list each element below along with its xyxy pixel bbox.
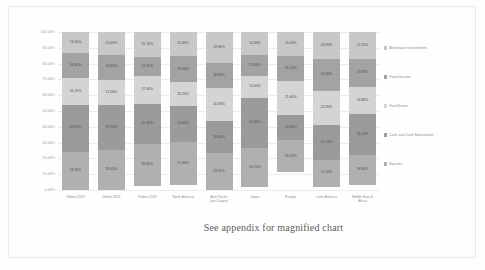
bar-segment[interactable]: 24.30% <box>62 152 89 190</box>
bar-segment[interactable]: 17.00% <box>98 80 125 106</box>
legend-item[interactable]: Fixed Income <box>384 75 411 79</box>
x-axis-label: Latin America <box>313 195 340 199</box>
bar-column[interactable]: 15.30%16.60%15.10%22.60%27.40% <box>170 32 197 190</box>
bar-segment[interactable]: 21.60% <box>277 81 304 115</box>
bar-segment[interactable]: 23.10% <box>206 153 233 189</box>
bar-series-container: 13.00%16.40%16.70%29.60%24.30%15.00%16.6… <box>58 32 380 190</box>
bar-segment-value: 22.60% <box>177 122 189 126</box>
bar-column[interactable]: 16.90%20.30%21.90%21.70%17.10% <box>313 32 340 190</box>
legend-label: Fixed Income <box>389 75 411 79</box>
bar-segment[interactable]: 17.10% <box>313 160 340 187</box>
bar-segment-value: 17.10% <box>357 44 369 48</box>
legend-swatch-icon <box>384 162 387 165</box>
y-axis-tick: 100.00% <box>40 30 55 34</box>
bar-segment[interactable]: 29.70% <box>98 105 125 150</box>
bar-segment[interactable]: 16.70% <box>62 78 89 104</box>
bar-column[interactable]: 14.30%13.80%13.40%31.90%24.70% <box>241 32 268 190</box>
y-axis-tick-labels: 100.00%90.00%80.00%70.00%60.00%50.00%40.… <box>30 32 57 190</box>
legend-item[interactable]: Real Estate <box>384 104 408 108</box>
bar-column[interactable]: 15.70%12.20%17.40%25.30%26.90% <box>134 32 161 190</box>
bar-segment-value: 16.90% <box>321 44 333 48</box>
legend-item[interactable]: Alternative Investments <box>384 46 427 50</box>
bar-segment-value: 21.90% <box>321 106 333 110</box>
bar-segment[interactable]: 22.60% <box>170 106 197 142</box>
bar-segment[interactable]: 24.70% <box>241 148 268 187</box>
bar-segment-value: 15.70% <box>141 43 153 47</box>
stacked-bar-chart: 100.00%90.00%80.00%70.00%60.00%50.00%40.… <box>30 24 380 214</box>
bar-segment[interactable]: 16.90% <box>313 32 340 59</box>
bar-segment[interactable]: 14.30% <box>241 32 268 55</box>
legend-label: Cash and Cash Equivalents <box>389 133 433 137</box>
y-axis-tick: 0.00% <box>45 188 55 192</box>
legend-swatch-icon <box>384 75 387 78</box>
bar-segment-value: 12.20% <box>141 65 153 69</box>
bar-segment-value: 21.60% <box>285 96 297 100</box>
legend-swatch-icon <box>384 46 387 49</box>
bar-segment-value: 21.70% <box>321 141 333 145</box>
bar-segment-value: 17.90% <box>357 71 369 75</box>
bar-column[interactable]: 13.00%16.40%16.70%29.60%24.30% <box>62 32 89 190</box>
bar-segment-value: 15.00% <box>285 42 297 46</box>
bar-segment[interactable]: 19.60% <box>206 32 233 63</box>
bar-segment[interactable]: 15.10% <box>170 82 197 106</box>
bar-segment[interactable]: 25.30% <box>134 104 161 144</box>
bar-segment[interactable]: 21.90% <box>313 91 340 126</box>
bar-segment-value: 20.90% <box>213 103 225 107</box>
bar-segment-value: 16.80% <box>357 99 369 103</box>
bar-segment[interactable]: 15.30% <box>170 32 197 56</box>
bar-segment-value: 16.60% <box>177 68 189 72</box>
bar-segment[interactable]: 17.10% <box>349 32 376 59</box>
bar-segment[interactable]: 13.80% <box>241 55 268 77</box>
bar-segment[interactable]: 17.40% <box>134 76 161 103</box>
bar-segment[interactable]: 15.70% <box>134 32 161 57</box>
bar-column[interactable]: 15.00%16.10%21.60%15.90%20.20% <box>277 32 304 190</box>
legend-item[interactable]: Equities <box>384 162 402 166</box>
bar-segment[interactable]: 20.30% <box>313 59 340 91</box>
bar-segment[interactable]: 16.00% <box>206 63 233 88</box>
bar-segment[interactable]: 26.60% <box>98 150 125 190</box>
bar-segment-value: 15.90% <box>285 126 297 130</box>
bar-segment[interactable]: 29.60% <box>62 105 89 152</box>
x-axis-label: North America <box>170 195 197 199</box>
bar-segment[interactable]: 12.20% <box>134 57 161 76</box>
bar-segment-value: 26.60% <box>106 168 118 172</box>
bar-segment[interactable]: 16.10% <box>277 56 304 81</box>
bar-segment[interactable]: 26.10% <box>349 114 376 155</box>
y-axis-tick: 30.00% <box>43 141 56 145</box>
bar-segment[interactable]: 13.00% <box>62 32 89 53</box>
x-axis-label: Global 2010 <box>62 195 89 199</box>
legend-item[interactable]: Cash and Cash Equivalents <box>384 133 434 137</box>
bar-segment[interactable]: 26.90% <box>134 144 161 187</box>
bar-segment-value: 24.70% <box>249 166 261 170</box>
bar-segment-value: 13.80% <box>249 64 261 68</box>
bar-segment-value: 16.10% <box>285 67 297 71</box>
bar-segment-value: 15.10% <box>177 93 189 97</box>
x-axis-label: Japan <box>241 195 268 199</box>
bar-segment[interactable]: 21.70% <box>313 125 340 159</box>
bar-segment[interactable]: 17.90% <box>349 59 376 87</box>
bar-segment[interactable]: 16.40% <box>62 53 89 79</box>
chart-legend: Alternative InvestmentsFixed IncomeReal … <box>384 46 476 186</box>
bar-segment[interactable]: 27.40% <box>170 142 197 185</box>
bar-column[interactable]: 19.60%16.00%20.90%20.40%23.10% <box>206 32 233 190</box>
bar-segment[interactable]: 20.40% <box>206 121 233 153</box>
bar-segment[interactable]: 16.60% <box>98 55 125 80</box>
bar-segment[interactable]: 20.20% <box>277 140 304 172</box>
bar-segment[interactable]: 31.90% <box>241 98 268 148</box>
bar-segment-value: 17.10% <box>321 171 333 175</box>
bar-segment-value: 16.40% <box>70 64 82 68</box>
bar-segment[interactable]: 18.90% <box>349 155 376 185</box>
bar-column[interactable]: 17.10%17.90%16.80%26.10%18.90% <box>349 32 376 190</box>
bar-segment[interactable]: 15.00% <box>98 32 125 55</box>
bar-segment-value: 29.70% <box>106 126 118 130</box>
bar-segment[interactable]: 16.60% <box>170 56 197 82</box>
bar-segment[interactable]: 15.90% <box>277 115 304 140</box>
x-axis-label: Europe <box>277 195 304 199</box>
bar-segment[interactable]: 13.40% <box>241 76 268 97</box>
bar-segment[interactable]: 16.80% <box>349 87 376 114</box>
y-axis-tick: 90.00% <box>43 46 56 50</box>
bar-segment[interactable]: 15.00% <box>277 32 304 56</box>
bar-segment-value: 24.30% <box>70 169 82 173</box>
bar-column[interactable]: 15.00%16.60%17.00%29.70%26.60% <box>98 32 125 190</box>
bar-segment[interactable]: 20.90% <box>206 88 233 121</box>
